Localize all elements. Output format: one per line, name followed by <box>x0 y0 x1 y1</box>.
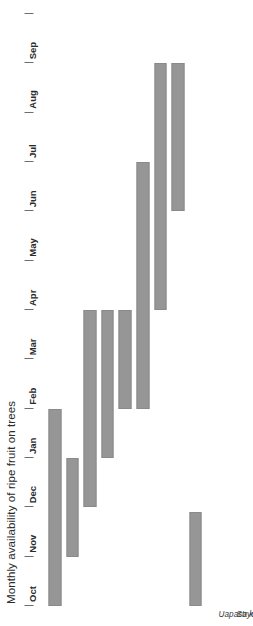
month-tick <box>24 556 33 557</box>
bar-ziziphus-mauritiana <box>171 63 184 211</box>
bar-uapaca-kirkiana <box>48 409 61 606</box>
category-label-strychnos-cocculoides: Strychnos cocculoides <box>236 610 253 619</box>
chart-title: Monthly availability of ripe fruit on tr… <box>4 401 16 604</box>
month-label-feb: Feb <box>26 388 37 405</box>
month-axis: OctNovDecJanFebMarAprMayJunJulAugSep <box>24 0 40 626</box>
bars-layer <box>40 0 210 626</box>
month-label-jan: Jan <box>26 438 37 454</box>
bar-strychnos-cocculoides <box>66 458 79 557</box>
month-tick <box>24 309 33 310</box>
month-tick <box>24 506 33 507</box>
month-label-aug: Aug <box>26 90 37 108</box>
chart-figure: Monthly availability of ripe fruit on tr… <box>0 0 253 626</box>
month-tick <box>24 161 33 162</box>
bar-azanza-garckeana <box>83 310 96 507</box>
month-tick <box>24 408 33 409</box>
bar-adansonia-digitata <box>154 63 167 310</box>
month-label-nov: Nov <box>26 535 37 553</box>
month-label-may: May <box>26 238 37 256</box>
month-tick <box>24 62 33 63</box>
chart-plot-area: Monthly availability of ripe fruit on tr… <box>0 0 253 626</box>
month-label-sep: Sep <box>26 42 37 59</box>
month-tick <box>24 358 33 359</box>
month-tick <box>24 112 33 113</box>
month-tick <box>24 13 33 14</box>
month-label-jun: Jun <box>26 190 37 207</box>
month-label-dec: Dec <box>26 486 37 503</box>
bar-flacourtia-indica <box>101 310 114 458</box>
category-labels: Uapaca kirkianaStrychnos cocculoidesAzan… <box>212 0 252 626</box>
bar-vitex-doniana <box>136 162 149 409</box>
month-label-mar: Mar <box>26 338 37 355</box>
month-tick <box>24 260 33 261</box>
month-tick <box>24 605 33 606</box>
bar-parinari-curatellifolia <box>189 512 202 606</box>
month-tick <box>24 210 33 211</box>
bar-vangueria-infausta <box>118 310 131 409</box>
month-tick <box>24 457 33 458</box>
month-label-jul: Jul <box>26 144 37 158</box>
month-label-apr: Apr <box>26 290 37 306</box>
month-label-oct: Oct <box>26 586 37 602</box>
